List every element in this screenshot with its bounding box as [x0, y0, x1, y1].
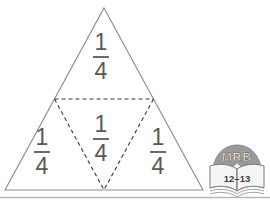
badge-page-range: 12–13: [224, 173, 250, 184]
fraction-label-center: 1 4: [87, 113, 115, 165]
fraction-label-bottom-left: 1 4: [28, 126, 56, 178]
fraction-label-top: 1 4: [87, 31, 115, 83]
fraction-denominator: 4: [152, 155, 165, 178]
mrb-badge: MRB 12–13: [206, 142, 268, 200]
mrb-badge-svg: MRB 12–13: [206, 142, 268, 200]
fraction-numerator: 1: [36, 126, 49, 149]
badge-title: MRB: [222, 150, 253, 165]
fraction-denominator: 4: [95, 142, 108, 165]
fraction-numerator: 1: [95, 113, 108, 136]
fraction-denominator: 4: [95, 60, 108, 83]
fraction-denominator: 4: [36, 155, 49, 178]
fraction-numerator: 1: [95, 31, 108, 54]
worksheet-figure-page: 1 4 1 4 1 4 1 4 MRB: [0, 0, 270, 203]
fraction-label-bottom-right: 1 4: [144, 126, 172, 178]
fraction-numerator: 1: [152, 126, 165, 149]
